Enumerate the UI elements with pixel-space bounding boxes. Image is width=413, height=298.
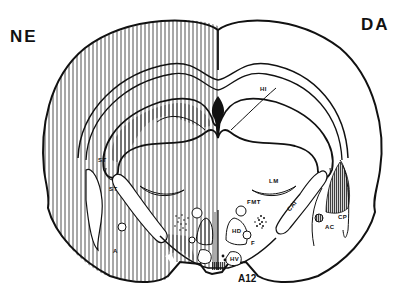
a12-hatched-region xyxy=(212,262,226,270)
label-hv: HV xyxy=(230,256,239,262)
label-ne-hemisphere: NE xyxy=(10,27,38,47)
label-fmt: FMT xyxy=(247,199,261,205)
nucleus-f-circle xyxy=(243,231,251,239)
stipple-right xyxy=(254,215,267,229)
lm-right-curve xyxy=(252,186,296,196)
label-st-upper: ST xyxy=(98,157,107,163)
label-cp: CP xyxy=(338,214,347,220)
a12-dot-2 xyxy=(224,259,227,262)
a12-dot-1 xyxy=(222,255,225,258)
label-f: F xyxy=(251,240,255,246)
cp-dark-hatched-region xyxy=(326,162,350,213)
right-ac-dark-circle xyxy=(315,214,323,222)
right-ca1-band xyxy=(276,171,327,234)
label-a12: A12 xyxy=(238,273,256,284)
label-lm: LM xyxy=(269,178,279,184)
label-st-lower: ST xyxy=(109,186,118,192)
label-hi: HI xyxy=(260,86,267,92)
nucleus-small-left-lower xyxy=(189,237,195,243)
nucleus-fmt-circle xyxy=(236,206,246,216)
label-ac: AC xyxy=(325,224,335,230)
left-ac-circle xyxy=(118,223,126,231)
nucleus-small-left xyxy=(192,208,202,218)
label-a-small: A xyxy=(113,248,118,254)
nucleus-left-lower-oval xyxy=(198,250,212,264)
label-hd: HD xyxy=(232,228,242,234)
label-da-hemisphere: DA xyxy=(361,15,390,35)
brain-coronal-section-diagram xyxy=(0,0,413,298)
